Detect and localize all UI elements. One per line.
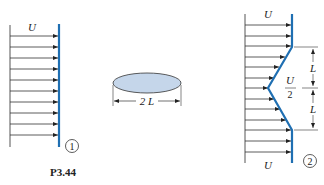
- bottom-velocity-label: U: [264, 159, 273, 171]
- figure-caption: P3.44: [50, 166, 76, 178]
- figure-canvas: U 1 P3.44 2 L U U: [0, 0, 324, 185]
- lower-length-label: L: [309, 103, 316, 115]
- defect-label-denominator: 2: [288, 89, 293, 100]
- station-label-2: 2: [308, 156, 313, 167]
- panel-2-wake-profile: U U L L U 2 2: [245, 8, 318, 171]
- defect-label-numerator: U: [286, 74, 295, 86]
- body-ellipse-group: 2 L: [113, 73, 181, 107]
- top-velocity-label: U: [264, 8, 273, 20]
- velocity-arrows-1: [10, 36, 58, 135]
- upper-length-label: L: [309, 62, 316, 74]
- panel-1-uniform-profile: U 1 P3.44: [10, 21, 79, 178]
- width-label: 2 L: [140, 95, 154, 107]
- station-label-1: 1: [70, 141, 75, 152]
- velocity-label-1: U: [28, 21, 37, 33]
- body-ellipse: [113, 73, 181, 93]
